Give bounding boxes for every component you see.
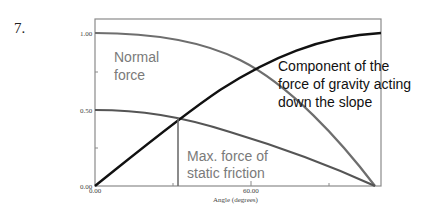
normal-force-label-2: force [114, 67, 145, 83]
friction-chart: 1.00 0.50 0.00 0.00 60.00 Angle (degrees… [0, 0, 437, 213]
gravity-label-3: down the slope [278, 94, 372, 110]
y-label-mid: 0.50 [80, 107, 93, 115]
gravity-label-1: Component of the [278, 58, 390, 74]
normal-force-label-1: Normal [114, 49, 159, 65]
y-label-top: 1.00 [80, 30, 93, 38]
gravity-label-2: force of gravity acting [278, 76, 411, 92]
friction-label-1: Max. force of [187, 148, 268, 164]
x-label-left: 0.00 [89, 187, 102, 195]
friction-label-2: static friction [187, 165, 265, 181]
x-label-mid: 60.00 [243, 187, 259, 195]
x-axis-title: Angle (degrees) [213, 196, 259, 204]
